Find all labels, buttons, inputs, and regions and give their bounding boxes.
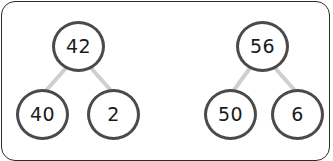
part-node-left-value: 40 (30, 105, 55, 124)
whole-node-value: 56 (250, 37, 275, 56)
part-node-left[interactable]: 40 (16, 89, 69, 140)
part-node-right[interactable]: 6 (271, 89, 324, 140)
part-node-right-value: 2 (107, 105, 120, 124)
whole-node-value: 42 (66, 37, 91, 56)
whole-node[interactable]: 42 (52, 21, 105, 72)
number-bond-diagram-left: 42 40 2 (10, 2, 150, 150)
whole-node[interactable]: 56 (236, 21, 289, 72)
worksheet-card: 42 40 2 56 50 6 (1, 1, 330, 150)
part-node-left-value: 50 (218, 105, 243, 124)
part-node-right-value: 6 (291, 105, 304, 124)
number-bond-diagram-right: 56 50 6 (198, 2, 333, 150)
part-node-right[interactable]: 2 (87, 89, 140, 140)
part-node-left[interactable]: 50 (204, 89, 257, 140)
